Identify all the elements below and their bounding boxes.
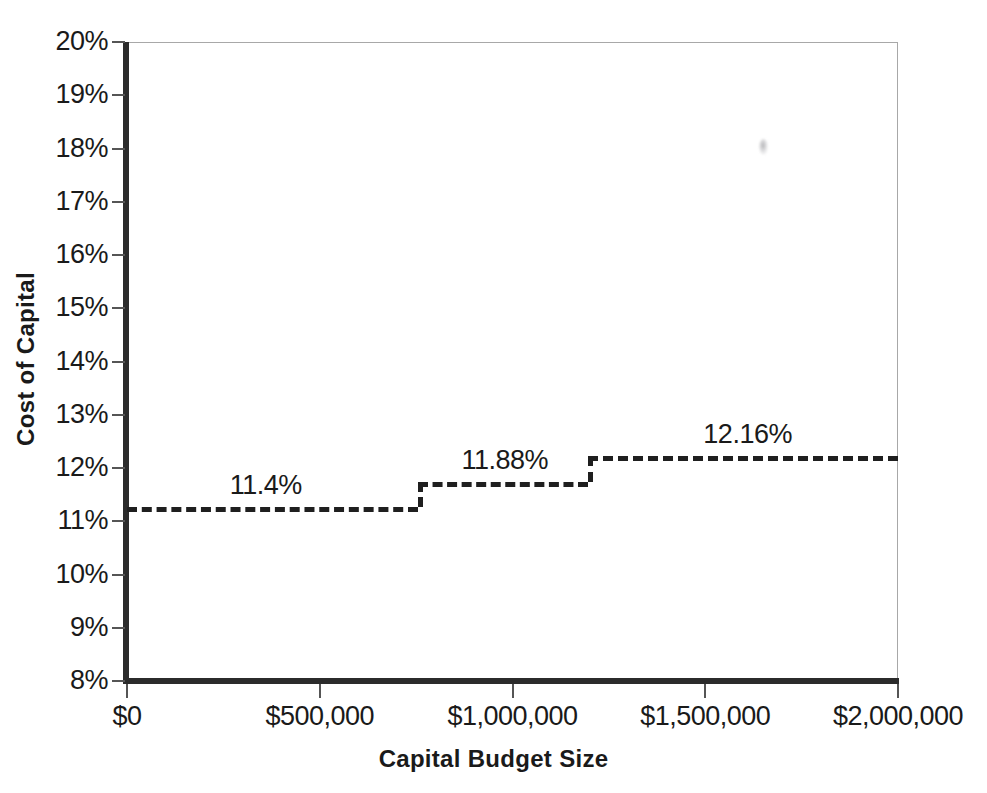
step-segment-vertical bbox=[588, 456, 593, 482]
scan-artifact-smudge bbox=[759, 139, 768, 155]
y-axis-tick bbox=[112, 680, 125, 682]
y-axis-tick-label: 17% bbox=[0, 188, 108, 215]
x-axis-tick bbox=[126, 684, 128, 698]
y-axis-tick bbox=[112, 94, 125, 96]
step-data-label: 11.4% bbox=[156, 470, 376, 500]
x-axis-tick bbox=[897, 684, 899, 698]
y-axis-tick-label-text: 19% bbox=[0, 81, 108, 108]
y-axis-tick bbox=[112, 41, 125, 43]
cost-of-capital-step-chart: 20%19%18%17%16%15%14%13%12%11%10%9%8% Co… bbox=[0, 0, 987, 793]
y-axis-tick-label-text: 20% bbox=[0, 28, 108, 55]
x-axis-tick-label: $2,000,000 bbox=[768, 700, 987, 732]
step-segment-horizontal bbox=[418, 482, 588, 487]
step-segment-vertical bbox=[418, 482, 423, 507]
y-axis-tick bbox=[112, 414, 125, 416]
y-axis-tick-label: 18% bbox=[0, 135, 108, 162]
x-axis-tick bbox=[319, 684, 321, 698]
step-segment-horizontal bbox=[588, 456, 898, 461]
y-axis-tick-label: 20% bbox=[0, 28, 108, 55]
x-axis-title: Capital Budget Size bbox=[0, 745, 987, 773]
x-axis-tick bbox=[512, 684, 514, 698]
y-axis-tick-label-text: 11% bbox=[0, 507, 108, 534]
y-axis-tick bbox=[112, 574, 125, 576]
y-axis-tick bbox=[112, 254, 125, 256]
y-axis-tick-label-text: 10% bbox=[0, 561, 108, 588]
y-axis-title: Cost of Capital bbox=[12, 249, 40, 469]
y-axis-tick bbox=[112, 467, 125, 469]
y-axis-tick-label: 11% bbox=[0, 507, 108, 534]
y-axis-tick bbox=[112, 361, 125, 363]
y-axis-tick-label-text: 18% bbox=[0, 135, 108, 162]
y-axis-tick bbox=[112, 627, 125, 629]
y-axis-tick bbox=[112, 201, 125, 203]
y-axis-tick-label: 19% bbox=[0, 81, 108, 108]
y-axis-tick-label: 9% bbox=[0, 614, 108, 641]
y-axis-tick bbox=[112, 148, 125, 150]
plot-area bbox=[127, 42, 898, 681]
step-segment-horizontal bbox=[127, 507, 418, 512]
y-axis-tick bbox=[112, 307, 125, 309]
y-axis-tick-label-text: 17% bbox=[0, 188, 108, 215]
x-axis-tick bbox=[704, 684, 706, 698]
y-axis-line bbox=[123, 42, 129, 683]
y-axis-tick-label-text: 8% bbox=[0, 667, 108, 694]
y-axis-tick bbox=[112, 520, 125, 522]
step-data-label: 11.88% bbox=[395, 445, 615, 475]
y-axis-tick-label: 10% bbox=[0, 561, 108, 588]
y-axis-tick-label-text: 9% bbox=[0, 614, 108, 641]
y-axis-tick-label: 8% bbox=[0, 667, 108, 694]
step-data-label: 12.16% bbox=[638, 419, 858, 449]
